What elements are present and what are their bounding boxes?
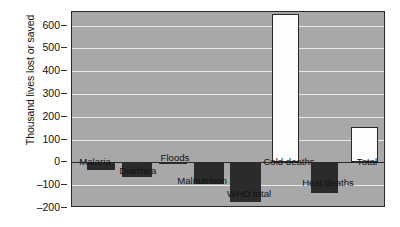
y-tick-mark	[61, 47, 67, 48]
y-tick-label: 400	[42, 65, 60, 75]
y-tick-label: 100	[42, 134, 60, 144]
bar-label-diarrhea: Diarrhea	[120, 166, 157, 176]
y-tick-mark	[61, 139, 67, 140]
bar-label-cold-deaths: Cold deaths	[263, 157, 314, 167]
y-tick-label: 600	[42, 20, 60, 30]
y-tick-label: –200	[37, 202, 60, 212]
gridline	[72, 26, 384, 27]
y-tick-label: 300	[42, 88, 60, 98]
bar-label-heat-deaths: Heat deaths	[302, 178, 354, 188]
y-tick-mark	[61, 93, 67, 94]
y-tick-label: 0	[54, 156, 60, 166]
y-tick-mark	[61, 161, 67, 162]
bar-label-total: Total	[357, 157, 377, 167]
y-tick-mark	[61, 184, 67, 185]
y-tick-mark	[61, 70, 67, 71]
gridline	[72, 48, 384, 49]
gridline	[72, 140, 384, 141]
y-tick-label: –100	[37, 179, 60, 189]
bar-label-malnutrition: Malnutrition	[177, 176, 227, 186]
bar-cold-deaths	[272, 14, 299, 162]
y-tick-mark	[61, 207, 67, 208]
bar-label-who-total: WHO total	[227, 189, 271, 199]
y-tick-mark	[61, 25, 67, 26]
y-tick-label: 200	[42, 111, 60, 121]
plot-area: MalariaDiarrheaFloodsMalnutritionWHO tot…	[71, 11, 385, 207]
gridline	[72, 117, 384, 118]
bar-chart-figure: Thousand lives lost or saved 60050040030…	[0, 0, 400, 227]
y-tick-mark	[61, 116, 67, 117]
gridline	[72, 71, 384, 72]
gridline	[72, 94, 384, 95]
bar-label-floods: Floods	[161, 153, 190, 163]
y-tick-label: 500	[42, 42, 60, 52]
y-axis-tick-labels: 6005004003002001000–100–200	[0, 0, 71, 227]
bar-label-malaria: Malaria	[79, 157, 110, 167]
